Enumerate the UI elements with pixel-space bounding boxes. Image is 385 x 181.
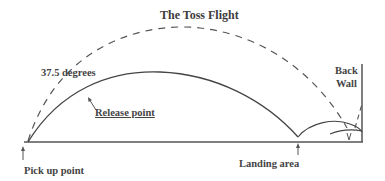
back-wall-label-line2: Wall (335, 77, 358, 90)
back-wall-label: Back Wall (335, 64, 358, 90)
dashed-wall-rebound (355, 104, 362, 128)
bounce-arc (298, 121, 362, 137)
wall-tick-mark (347, 133, 351, 140)
inner-bounce-arc (330, 130, 362, 134)
solid-release-arc (28, 72, 298, 142)
diagram-title: The Toss Flight (160, 8, 239, 23)
landing-area-label: Landing area (239, 158, 299, 169)
landing-area-arrow-icon (296, 143, 300, 155)
release-point-label: Release point (95, 107, 155, 118)
angle-label: 37.5 degrees (41, 67, 96, 78)
dashed-toss-arc (28, 27, 347, 141)
trajectory-drawing (0, 0, 385, 181)
toss-flight-diagram: The Toss Flight 37.5 degrees Release poi… (0, 0, 385, 181)
pick-up-point-label: Pick up point (24, 165, 84, 176)
pick-up-point-arrow-icon (21, 146, 25, 160)
back-wall-label-line1: Back (335, 64, 358, 77)
